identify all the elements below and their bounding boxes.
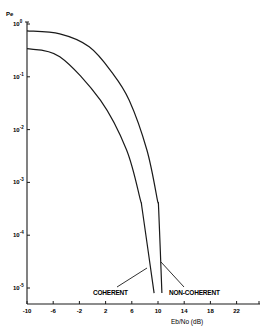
coherent-label: COHERENT [93,289,128,296]
x-ticks: -10-6-22610141822 [23,301,241,314]
non-coherent-label: NON-COHERENT [169,289,220,296]
x-tick-label: 10 [155,308,162,314]
y-tick-label: 10-4 [13,230,24,238]
y-tick-label: 100 [13,19,23,27]
x-tick-label: 22 [233,308,240,314]
chart-canvas: 10010-110-210-310-410-5 -10-6-2261014182… [0,0,269,330]
y-axis-title: Pe [6,11,14,17]
y-tick-label: 10-1 [13,72,24,80]
y-tick-label: 10-5 [13,283,24,291]
coherent-curve [27,49,154,293]
non-coherent-leader-line [161,262,184,287]
x-tick-label: 14 [181,308,188,314]
x-tick-label: -6 [51,308,57,314]
x-axis-title: Eb/No (dB) [171,318,203,326]
y-tick-label: 10-2 [13,125,24,133]
coherent-leader-line [117,268,147,287]
x-tick-label: 18 [207,308,214,314]
x-tick-label: -2 [77,308,83,314]
x-tick-label: -10 [23,308,32,314]
y-tick-label: 10-3 [13,177,24,185]
non-coherent-curve [27,31,162,293]
x-tick-label: 6 [130,308,134,314]
x-tick-label: 2 [104,308,108,314]
